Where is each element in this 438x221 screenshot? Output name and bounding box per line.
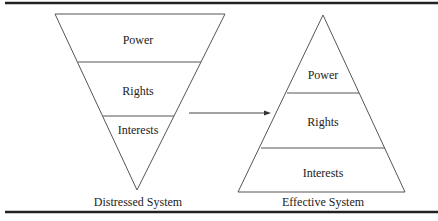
layer-power-label: Power [308, 68, 339, 82]
arrowhead-icon [264, 111, 271, 116]
layer-interests-label: Interests [303, 166, 344, 180]
diagram-canvas: Power Rights Interests Distressed System… [0, 0, 438, 221]
effective-system-caption: Effective System [282, 195, 365, 209]
distressed-system-caption: Distressed System [94, 195, 183, 209]
layer-interests-label: Interests [118, 123, 159, 137]
effective-system-triangle: Power Rights Interests Effective System [238, 15, 405, 209]
layer-rights-label: Rights [122, 84, 154, 98]
transition-arrow [189, 111, 271, 116]
layer-rights-label: Rights [307, 115, 339, 129]
distressed-system-triangle: Power Rights Interests Distressed System [55, 14, 225, 209]
layer-power-label: Power [123, 33, 154, 47]
